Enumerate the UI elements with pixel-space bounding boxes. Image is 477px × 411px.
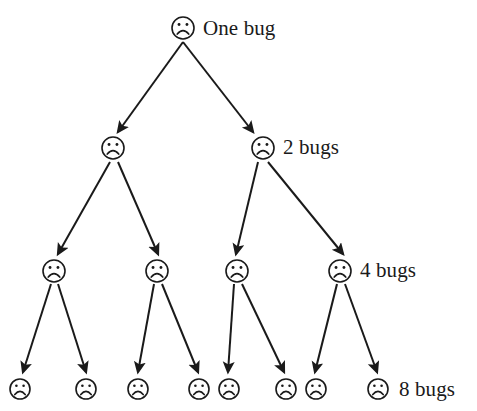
- edge-arrow: [345, 284, 377, 372]
- sad-face-icon: [329, 260, 351, 282]
- sad-face-icon: [76, 379, 96, 399]
- edge-arrow: [138, 284, 154, 372]
- level-label-one-bug: One bug: [203, 18, 275, 39]
- edge-arrow: [58, 162, 110, 254]
- sad-face-icon: [102, 137, 124, 159]
- bug-doubling-diagram: One bug 2 bugs 4 bugs 8 bugs: [0, 0, 477, 411]
- tree-graphic: [0, 0, 477, 411]
- sad-face-icon: [306, 379, 326, 399]
- edge-arrow: [315, 284, 337, 372]
- level-label-8-bugs: 8 bugs: [399, 379, 455, 400]
- sad-face-icon: [368, 379, 388, 399]
- sad-face-icon: [226, 260, 248, 282]
- edge-arrow: [268, 162, 343, 254]
- edge-arrow: [118, 162, 158, 254]
- level-label-2-bugs: 2 bugs: [283, 137, 339, 158]
- sad-face-icon: [146, 260, 168, 282]
- edge-arrow: [236, 162, 258, 254]
- level-label-4-bugs: 4 bugs: [360, 260, 416, 281]
- edge-arrows: [23, 42, 377, 372]
- edge-arrow: [242, 284, 284, 372]
- sad-face-icon: [276, 379, 296, 399]
- edge-arrow: [162, 284, 198, 372]
- sad-face-icon: [189, 379, 209, 399]
- edge-arrow: [23, 284, 51, 372]
- edge-arrow: [228, 284, 234, 372]
- sad-face-icon: [128, 379, 148, 399]
- edge-arrow: [118, 42, 183, 132]
- edge-arrow: [58, 284, 86, 372]
- sad-face-icon: [10, 379, 30, 399]
- node-icons: [10, 17, 388, 399]
- sad-face-icon: [219, 379, 239, 399]
- sad-face-icon: [252, 137, 274, 159]
- sad-face-icon: [43, 260, 65, 282]
- sad-face-icon: [172, 17, 194, 39]
- edge-arrow: [183, 42, 253, 132]
